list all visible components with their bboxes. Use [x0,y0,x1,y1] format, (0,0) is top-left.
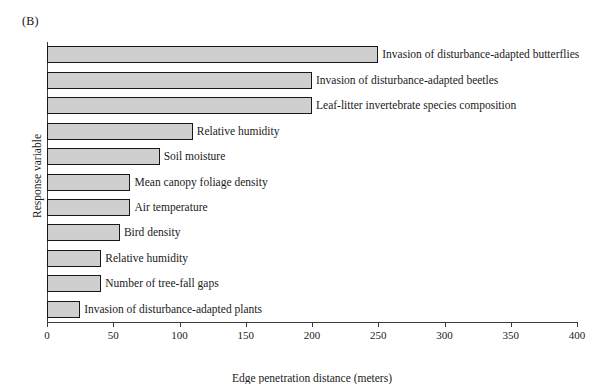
bar [47,199,130,216]
y-axis-title: Response variable [31,6,43,346]
bar [47,301,80,318]
x-tick-label: 50 [108,329,119,341]
x-tick-label: 350 [503,329,520,341]
bar-label: Relative humidity [101,250,188,267]
bar [47,72,312,89]
x-tick-label: 400 [569,329,586,341]
bar-label: Air temperature [130,199,207,216]
bar-label: Soil moisture [160,148,226,165]
bar [47,97,312,114]
bar [47,224,120,241]
x-tick-label: 250 [370,329,387,341]
x-tick-mark [312,322,313,327]
bar [47,174,130,191]
plot-area: Invasion of disturbance-adapted butterfl… [47,42,577,322]
bar-label: Invasion of disturbance-adapted butterfl… [378,46,579,63]
bar [47,148,160,165]
x-tick-mark [378,322,379,327]
x-tick-label: 150 [238,329,255,341]
bar-label: Bird density [120,224,181,241]
bar-label: Leaf-litter invertebrate species composi… [312,97,516,114]
x-tick-label: 0 [44,329,50,341]
x-tick-mark [113,322,114,327]
bar-label: Invasion of disturbance-adapted beetles [312,72,498,89]
x-tick-mark [445,322,446,327]
bar-label: Number of tree-fall gaps [101,275,218,292]
bar [47,123,193,140]
bar-label: Mean canopy foliage density [130,174,267,191]
bar [47,250,101,267]
x-axis-title: Edge penetration distance (meters) [47,372,577,384]
bar [47,275,101,292]
bar [47,46,378,63]
x-tick-label: 100 [171,329,188,341]
x-tick-label: 200 [304,329,321,341]
x-tick-mark [180,322,181,327]
x-tick-mark [47,322,48,327]
bar-label: Relative humidity [193,123,280,140]
bar-series: Invasion of disturbance-adapted butterfl… [47,42,577,322]
x-tick-label: 300 [436,329,453,341]
x-tick-mark [577,322,578,327]
x-tick-mark [246,322,247,327]
bar-label: Invasion of disturbance-adapted plants [80,301,262,318]
x-tick-mark [511,322,512,327]
x-axis-ticks: 050100150200250300350400 [47,322,577,352]
